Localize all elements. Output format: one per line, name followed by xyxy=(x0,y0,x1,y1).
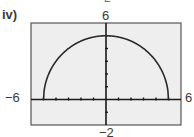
plot-area xyxy=(0,0,194,137)
